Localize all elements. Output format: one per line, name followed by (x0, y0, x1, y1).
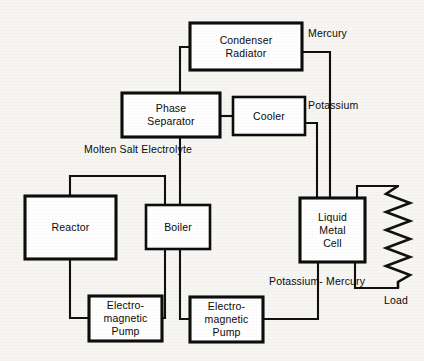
annotation-potassium-mercury: Potassium- Mercury (269, 275, 365, 289)
box-cooler[interactable] (233, 97, 305, 135)
box-liquid-metal-cell[interactable] (300, 198, 365, 262)
annotation-line: Mercury (326, 275, 365, 287)
annotation-mercury: Mercury (308, 27, 347, 41)
diagram-canvas: Condenser Radiator Phase Separator Coole… (0, 0, 424, 361)
wire-potassium-mercury-pump-to-cell (263, 262, 318, 319)
annotation-line: Load (384, 294, 408, 306)
resistor-zigzag-icon (386, 186, 410, 288)
annotation-line: Molten Salt (84, 143, 138, 155)
box-electromagnetic-pump-left[interactable] (89, 296, 162, 341)
annotation-line: Electrolyte (141, 143, 192, 155)
diagram-svg (0, 0, 424, 361)
wire-reactor-to-left-pump (70, 259, 89, 318)
box-condenser-radiator[interactable] (190, 23, 302, 70)
annotation-load: Load (384, 294, 408, 308)
box-reactor[interactable] (25, 196, 116, 259)
annotation-line: Potassium- (269, 275, 323, 287)
load-resistor (386, 186, 410, 288)
annotation-line: Potassium (308, 99, 358, 111)
diagram-boxes (25, 23, 365, 342)
box-boiler[interactable] (146, 205, 210, 249)
annotation-molten-salt-electrolyte: Molten Salt Electrolyte (84, 143, 192, 157)
box-phase-separator[interactable] (122, 93, 220, 137)
wire-potassium-cooler-to-cell (305, 123, 317, 198)
annotation-line: Mercury (308, 27, 347, 39)
annotation-potassium: Potassium (308, 99, 358, 113)
box-electromagnetic-pump-right[interactable] (190, 297, 263, 342)
